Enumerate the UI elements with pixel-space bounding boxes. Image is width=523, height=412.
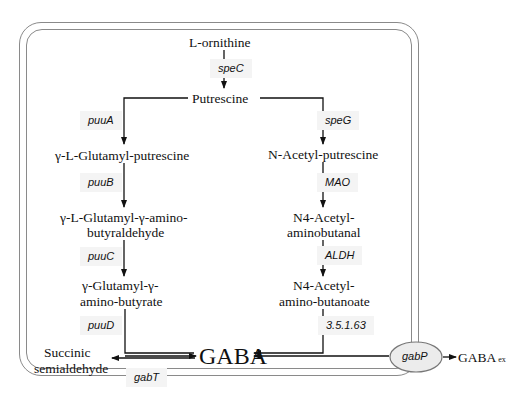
metabolite-n4-acetyl-aminobutanoate-line1: N4-Acetyl- — [293, 278, 354, 293]
metabolite-putrescine: Putrescine — [190, 91, 250, 106]
metabolite-l-ornithine: L-ornithine — [189, 35, 250, 50]
gaba-ex-subscript: ex — [498, 355, 506, 364]
gaba-ex-label: GABA — [458, 350, 496, 365]
metabolite-succinic-semialdehyde-line1: Succinic — [44, 345, 91, 360]
transporter-gabp: gabP — [402, 350, 428, 363]
enzyme-mao: MAO — [317, 173, 358, 192]
enzyme-speg: speG — [317, 111, 359, 130]
enzyme-puud: puuD — [80, 316, 122, 335]
metabolite-glutamyl-aminobutyraldehyde-line1: γ-L-Glutamyl-γ-amino- — [60, 210, 187, 225]
metabolite-succinic-semialdehyde-line2: semialdehyde — [34, 361, 108, 376]
metabolite-n4-acetyl-aminobutanal-line2: aminobutanal — [287, 225, 360, 240]
enzyme-spec: speC — [210, 59, 252, 78]
metabolite-gaba-extracellular: GABAex — [458, 350, 506, 367]
enzyme-puua: puuA — [80, 111, 122, 130]
metabolite-glutamyl-aminobutyrate-line1: γ-Glutamyl-γ- — [82, 278, 158, 293]
metabolite-n4-acetyl-aminobutanoate-line2: amino-butanoate — [279, 294, 370, 309]
metabolite-n-acetyl-putrescine: N-Acetyl-putrescine — [268, 147, 378, 162]
enzyme-3-5-1-63: 3.5.1.63 — [318, 316, 374, 335]
metabolite-n4-acetyl-aminobutanal-line1: N4-Acetyl- — [293, 210, 354, 225]
enzyme-gabt: gabT — [126, 368, 167, 387]
metabolite-glutamyl-putrescine: γ-L-Glutamyl-putrescine — [55, 148, 189, 163]
metabolite-gaba: GABA — [199, 343, 267, 369]
enzyme-puub: puuB — [80, 173, 122, 192]
metabolite-glutamyl-aminobutyrate-line2: amino-butyrate — [80, 294, 162, 309]
enzyme-aldh: ALDH — [317, 246, 362, 265]
metabolite-glutamyl-aminobutyraldehyde-line2: butyraldehyde — [87, 225, 164, 240]
enzyme-puuc: puuC — [80, 247, 122, 266]
